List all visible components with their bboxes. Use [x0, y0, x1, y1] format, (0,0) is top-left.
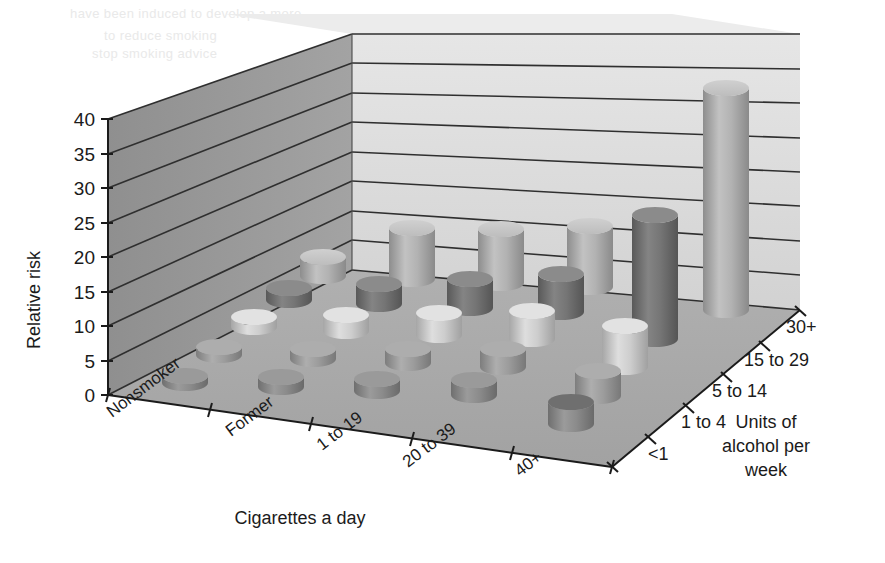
bar-nonsmoker-1to4 [196, 339, 242, 363]
depth-label-30plus: 30+ [786, 317, 817, 337]
bar-40plus-under1 [548, 394, 594, 432]
depth-label-under1: <1 [648, 444, 669, 464]
bar-40plus-30plus [703, 80, 749, 318]
bar-nonsmoker-15to29 [266, 280, 312, 308]
bar-former-1to4 [290, 341, 336, 367]
depth-axis-title: Units of alcohol per week [722, 412, 810, 480]
bar-1to19-5to14 [416, 305, 462, 343]
value-axis-tick-labels: 0 5 10 15 20 25 30 35 40 [74, 109, 95, 406]
value-tick-35: 35 [74, 144, 95, 165]
value-tick-40: 40 [74, 109, 95, 130]
value-tick-15: 15 [74, 282, 95, 303]
depth-label-5to14: 5 to 14 [712, 381, 767, 401]
depth-label-1to4: 1 to 4 [681, 412, 726, 432]
value-tick-20: 20 [74, 247, 95, 268]
bar-former-5to14 [323, 307, 369, 339]
bar-1to19-1to4 [385, 341, 431, 371]
depth-axis-title-line-3: week [744, 460, 788, 480]
value-tick-25: 25 [74, 213, 95, 234]
depth-axis-title-line-2: alcohol per [722, 436, 810, 456]
wall-top-cap [225, 14, 800, 34]
bar-former-under1 [258, 369, 304, 395]
value-tick-10: 10 [74, 316, 95, 337]
value-tick-0: 0 [84, 385, 95, 406]
category-axis-title: Cigarettes a day [234, 508, 365, 528]
value-tick-30: 30 [74, 178, 95, 199]
value-tick-5: 5 [84, 351, 95, 372]
bar-20to39-5to14 [509, 303, 555, 347]
bar-1to19-under1 [354, 371, 400, 399]
figure-3d-bar-chart: have been induced to develop a more to r… [0, 0, 885, 563]
chart-canvas: 0 5 10 15 20 25 30 35 40 Relative risk [0, 0, 885, 563]
bar-20to39-1to4 [480, 341, 526, 375]
bar-20to39-under1 [451, 372, 497, 403]
bar-nonsmoker-30plus [300, 249, 346, 284]
value-axis-title: Relative risk [24, 250, 44, 349]
bar-former-30plus [389, 220, 435, 287]
depth-label-15to29: 15 to 29 [744, 350, 809, 370]
depth-axis-title-line-1: Units of [735, 412, 797, 432]
bar-former-15to29 [356, 276, 402, 312]
bar-nonsmoker-5to14 [231, 309, 277, 335]
plot-panels [108, 14, 800, 467]
